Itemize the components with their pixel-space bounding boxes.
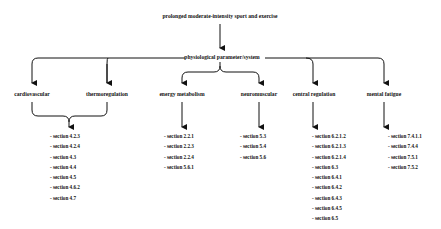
list-item: - section 4.6.2	[50, 182, 80, 192]
list-item: - section 5.6.1	[164, 162, 194, 172]
list-item: - section 7.4.4	[388, 141, 422, 151]
section-list-cardio-thermo: - section 4.2.3 - section 4.2.4 - sectio…	[50, 131, 80, 203]
list-item: - section 4.2.4	[50, 141, 80, 151]
list-item: - section 7.5.2	[388, 162, 422, 172]
list-item: - section 6.4.2	[312, 182, 346, 192]
list-item: - section 2.2.1	[164, 131, 194, 141]
section-list-neuromuscular: - section 5.3 - section 5.4 - section 5.…	[240, 131, 266, 162]
root-node-title: prolonged moderate-intensity sport and e…	[162, 14, 277, 20]
node-mental-fatigue: mental fatigue	[367, 92, 401, 98]
list-item: - section 2.2.3	[164, 141, 194, 151]
list-item: - section 4.3	[50, 152, 80, 162]
center-node-physiological-parameter: physiological parameter/system	[184, 55, 259, 61]
list-item: - section 6.2.1.2	[312, 131, 346, 141]
list-item: - section 4.5	[50, 172, 80, 182]
list-item: - section 4.4	[50, 162, 80, 172]
list-item: - section 6.2.1.4	[312, 152, 346, 162]
list-item: - section 7.5.1	[388, 152, 422, 162]
list-item: - section 4.2.3	[50, 131, 80, 141]
list-item: - section 5.4	[240, 141, 266, 151]
list-item: - section 6.2.1.3	[312, 141, 346, 151]
node-thermoregulation: thermoregulation	[86, 92, 128, 98]
section-list-central-regulation: - section 6.2.1.2 - section 6.2.1.3 - se…	[312, 131, 346, 224]
node-cardiovascular: cardiovascular	[14, 92, 49, 98]
list-item: - section 6.3	[312, 162, 346, 172]
list-item: - section 6.4.1	[312, 172, 346, 182]
node-neuromuscular: neuromuscular	[241, 92, 277, 98]
node-central-regulation: central regulation	[293, 92, 336, 98]
list-item: - section 2.2.4	[164, 152, 194, 162]
list-item: - section 6.4.5	[312, 203, 346, 213]
list-item: - section 6.5	[312, 213, 346, 223]
list-item: - section 4.7	[50, 193, 80, 203]
list-item: - section 5.3	[240, 131, 266, 141]
list-item: - section 5.6	[240, 152, 266, 162]
list-item: - section 7.4.1.1	[388, 131, 422, 141]
list-item: - section 6.4.3	[312, 193, 346, 203]
section-list-mental-fatigue: - section 7.4.1.1 - section 7.4.4 - sect…	[388, 131, 422, 172]
section-list-energy-metabolism: - section 2.2.1 - section 2.2.3 - sectio…	[164, 131, 194, 172]
node-energy-metabolism: energy metabolism	[159, 92, 204, 98]
